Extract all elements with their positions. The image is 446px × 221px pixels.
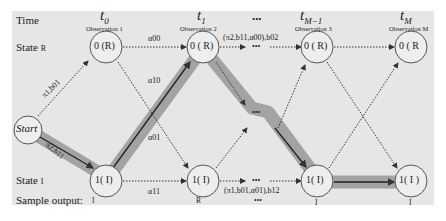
edge-a10-label: α10 — [148, 76, 160, 85]
observation-2-label: Observation 2 — [180, 25, 217, 32]
edge-a00-label: α00 — [148, 34, 160, 43]
time-ellipsis: ••• — [252, 14, 261, 24]
node-r-t1-label: 0 ( R) — [190, 40, 213, 51]
node-r-tm1-label: 0 ( R) — [304, 40, 327, 51]
state-i-row-label: State I — [16, 174, 43, 186]
observation-1-label: Observation 1 — [86, 25, 123, 32]
observation-m-label: Observation M — [389, 25, 428, 32]
node-i-tm1-label: 1( I) — [306, 174, 324, 185]
node-i-tm-label: 1( I ) — [399, 174, 419, 185]
state-r-row-label: State R — [16, 41, 46, 53]
output-t0: I — [92, 196, 95, 205]
node-r-t0-label: 0 (R) — [94, 40, 115, 51]
time-tm1: tM−1 — [300, 7, 322, 26]
time-t0: t0 — [100, 7, 109, 26]
node-i-t1-label: 1( I) — [192, 174, 210, 185]
output-tm1: I — [315, 198, 318, 207]
output-tm: I — [409, 198, 412, 207]
node-i-t0-label: 1( I) — [95, 174, 113, 185]
edge-a01-label: α01 — [148, 133, 160, 142]
mid-ellipsis: ••• — [252, 108, 260, 117]
edge-bottom-mid-label: (π1,b01,α01),b12 — [224, 186, 280, 195]
output-ellipsis: ••• — [254, 196, 262, 205]
top-ellipsis: ••• — [252, 42, 260, 51]
sample-output-label: Sample output: — [16, 194, 83, 206]
edge-a11-label: α11 — [148, 187, 160, 196]
edge-top-mid-label: (π2,b11,α00),b02 — [223, 33, 278, 42]
observation-3-label: Observation 3 — [295, 25, 332, 32]
node-r-tm-label: 0 ( R — [399, 40, 419, 51]
time-t1: t1 — [197, 7, 206, 26]
start-node-label: Start — [16, 122, 37, 134]
output-t1: R — [196, 196, 201, 205]
bottom-ellipsis: ••• — [252, 176, 260, 185]
time-tm: tM — [400, 7, 412, 26]
time-row-label: Time — [16, 14, 39, 26]
